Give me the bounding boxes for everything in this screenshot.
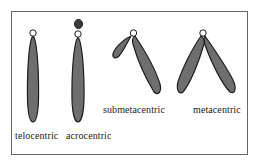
metacentric-label: metacentric <box>193 104 241 115</box>
metacentric-chromosome <box>177 30 235 93</box>
centromere-icon <box>200 30 206 36</box>
centromere-icon <box>130 30 136 36</box>
telocentric-label: telocentric <box>15 130 58 141</box>
satellite-icon <box>75 19 83 28</box>
centromere-icon <box>30 30 36 36</box>
submetacentric-chromosome <box>113 30 161 94</box>
centromere-icon <box>75 31 81 37</box>
acrocentric-label: acrocentric <box>66 130 112 141</box>
submetacentric-label: submetacentric <box>103 104 165 115</box>
telocentric-chromosome <box>27 30 38 122</box>
acrocentric-chromosome <box>72 19 84 122</box>
